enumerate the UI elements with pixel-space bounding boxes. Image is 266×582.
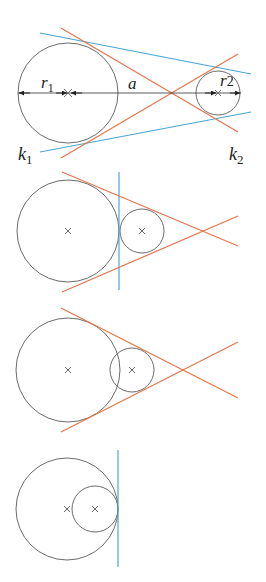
external-tangent-bottom: [62, 216, 238, 292]
figure-externally-touching: [17, 172, 238, 292]
center-mark-small: [139, 228, 145, 234]
figure-internally-touching: [16, 450, 118, 567]
internal-tangent-1: [61, 28, 238, 132]
center-mark-big: [65, 367, 71, 373]
external-tangent-top: [62, 172, 238, 246]
center-mark-big: [65, 228, 71, 234]
internal-tangent-2: [61, 54, 238, 158]
center-mark-small: [129, 367, 135, 373]
figure-separate-circles: r1 a r2 k1 k2: [18, 28, 251, 167]
center-mark-small: [92, 506, 98, 512]
label-a: a: [128, 74, 137, 93]
external-tangent-bottom: [40, 112, 251, 152]
external-tangent-top: [61, 308, 238, 398]
center-mark-big: [64, 506, 70, 512]
label-k1: k1: [18, 144, 33, 167]
external-tangent-bottom: [61, 342, 238, 432]
label-r2: r2: [220, 71, 234, 90]
label-k2: k2: [229, 144, 244, 167]
external-tangent-top: [40, 33, 251, 74]
figure-intersecting: [16, 308, 238, 432]
label-r1: r1: [41, 73, 54, 95]
tangent-diagrams: r1 a r2 k1 k2: [0, 0, 266, 582]
